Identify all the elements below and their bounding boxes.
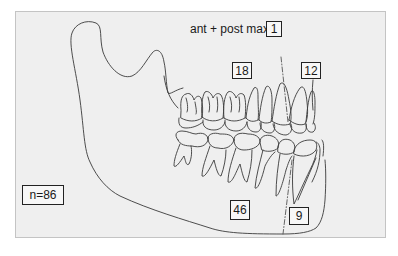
upper-crowns xyxy=(179,118,316,135)
count-box-upper-anterior: 12 xyxy=(301,62,321,79)
lower-teeth xyxy=(174,131,324,204)
mandible-outline xyxy=(71,22,326,234)
jaw-diagram xyxy=(0,0,398,256)
count-box-lower-anterior: 9 xyxy=(289,207,309,225)
count-box-lower-molar: 46 xyxy=(230,200,250,220)
ant-post-max-label: ant + post max xyxy=(190,23,269,35)
sample-size-box: n=86 xyxy=(22,185,64,205)
upper-teeth xyxy=(181,80,315,125)
count-box-upper-molar: 18 xyxy=(232,62,252,79)
count-box-top: 1 xyxy=(266,21,282,37)
